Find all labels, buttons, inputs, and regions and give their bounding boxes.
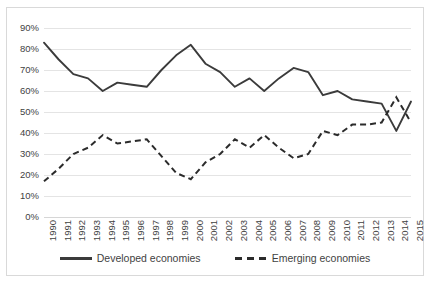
- legend-swatch-dashed-line-icon: [235, 257, 267, 260]
- y-axis-tick-label: 90%: [20, 23, 39, 33]
- y-axis-tick-label: 80%: [20, 44, 39, 54]
- y-axis-tick-label: 30%: [20, 149, 39, 159]
- y-axis-tick-label: 60%: [20, 86, 39, 96]
- y-axis-tick-label: 50%: [20, 107, 39, 117]
- series-lines: [44, 28, 411, 217]
- series-line-emerging-economies: [44, 97, 411, 181]
- legend-label-emerging-economies: Emerging economies: [272, 252, 371, 264]
- series-line-developed-economies: [44, 43, 411, 131]
- chart-container: 90%80%70%60%50%40%30%20%10%0% 1990199119…: [6, 7, 424, 276]
- y-axis-tick-label: 70%: [20, 65, 39, 75]
- plot-area: 90%80%70%60%50%40%30%20%10%0%: [44, 28, 411, 217]
- legend-swatch-solid-line-icon: [60, 257, 92, 260]
- y-axis-tick-label: 10%: [20, 191, 39, 201]
- y-axis-tick-label: 40%: [20, 128, 39, 138]
- chart-legend: Developed economies Emerging economies: [7, 252, 423, 264]
- y-axis-tick-label: 20%: [20, 170, 39, 180]
- legend-item-emerging-economies: Emerging economies: [235, 252, 371, 264]
- legend-item-developed-economies: Developed economies: [60, 252, 201, 264]
- y-axis-tick-label: 0%: [25, 212, 39, 222]
- gridline-0: 0%: [44, 217, 411, 218]
- legend-label-developed-economies: Developed economies: [97, 252, 201, 264]
